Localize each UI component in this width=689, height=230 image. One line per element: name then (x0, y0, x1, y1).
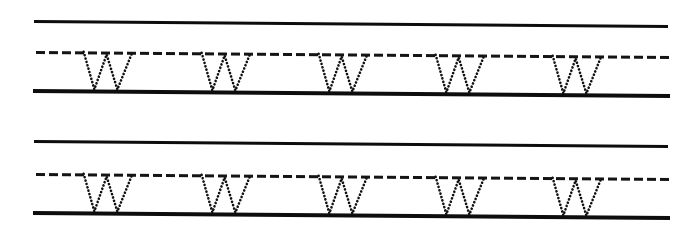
practice-row (0, 120, 689, 230)
letter-w-glyph (200, 174, 259, 214)
practice-row (0, 0, 689, 115)
guide-line-baseline (33, 211, 670, 220)
letter-w-glyph (317, 53, 376, 93)
letter-w-dotted-path (201, 53, 250, 91)
traceable-letter-w[interactable] (551, 177, 610, 217)
traceable-letter-w[interactable] (82, 51, 141, 91)
guide-line-dashed-midline (36, 51, 672, 59)
guide-line-top (34, 140, 668, 148)
letter-w-glyph (434, 54, 493, 94)
traceable-letter-w[interactable] (317, 175, 376, 215)
letter-w-dotted-path (83, 52, 132, 90)
letter-w-dotted-path (552, 178, 601, 216)
traceable-letter-w[interactable] (551, 55, 610, 95)
letter-w-dotted-path (435, 177, 484, 215)
traceable-letter-w[interactable] (200, 174, 259, 214)
letter-w-glyph (82, 51, 141, 91)
traceable-letter-w[interactable] (82, 173, 141, 213)
guide-line-baseline (33, 89, 670, 98)
traceable-letter-w[interactable] (434, 176, 493, 216)
letter-w-glyph (200, 52, 259, 92)
letter-w-dotted-path (435, 55, 484, 93)
tracing-worksheet (0, 0, 689, 230)
letter-w-dotted-path (83, 174, 132, 212)
letter-w-dotted-path (552, 56, 601, 94)
guide-line-dashed-midline (36, 173, 672, 181)
letter-w-glyph (551, 177, 610, 217)
letter-w-dotted-path (318, 54, 367, 92)
traceable-letter-w[interactable] (200, 52, 259, 92)
letter-w-glyph (317, 175, 376, 215)
letter-w-glyph (551, 55, 610, 95)
guide-line-top (34, 20, 668, 28)
traceable-letter-w[interactable] (317, 53, 376, 93)
letter-w-dotted-path (318, 176, 367, 214)
letter-w-glyph (434, 176, 493, 216)
letter-w-dotted-path (201, 175, 250, 213)
letter-w-glyph (82, 173, 141, 213)
traceable-letter-w[interactable] (434, 54, 493, 94)
